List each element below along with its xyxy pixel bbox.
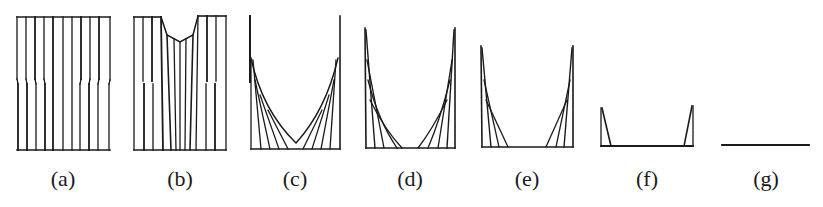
panel-a-drawing <box>17 17 110 150</box>
panel-e-label: (e) <box>515 166 539 192</box>
panel-b-drawing <box>134 16 226 150</box>
panel-c-drawing <box>250 16 340 149</box>
panel-g-label: (g) <box>753 166 779 192</box>
panel-c-label: (c) <box>283 166 307 192</box>
panel-a-label: (a) <box>51 166 75 192</box>
panel-d-drawing <box>365 28 455 148</box>
panel-f-label: (f) <box>636 166 658 192</box>
panel-b-label: (b) <box>167 166 193 192</box>
panel-d-label: (d) <box>397 166 423 192</box>
panel-f-drawing <box>601 106 693 146</box>
panel-e-drawing <box>481 46 573 147</box>
